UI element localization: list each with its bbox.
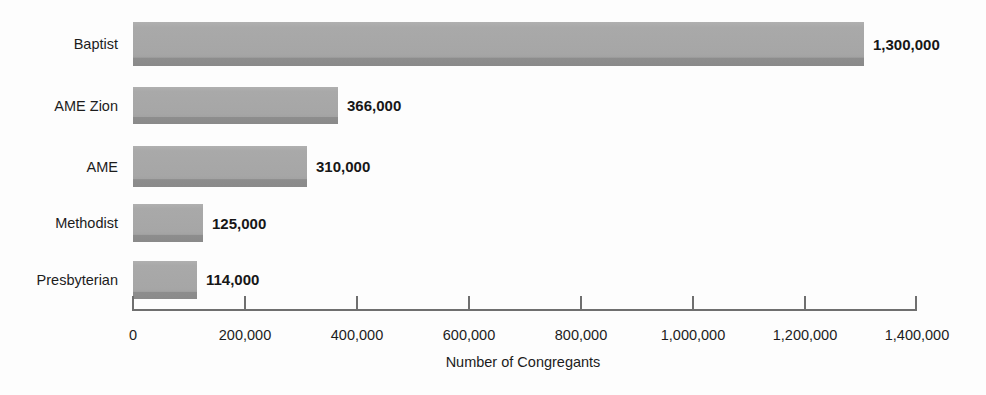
category-label-baptist: Baptist: [0, 37, 118, 52]
category-label-methodist: Methodist: [0, 216, 118, 231]
x-axis-tick: [580, 296, 582, 310]
plot-area: Baptist AME Zion AME Methodist Presbyter…: [0, 0, 986, 395]
x-axis-right-cap: [915, 296, 917, 310]
x-axis-tick-label: 0: [129, 328, 137, 343]
x-axis-left-cap: [132, 296, 134, 310]
value-label-baptist: 1,300,000: [873, 37, 940, 52]
category-label-ame: AME: [0, 160, 118, 175]
x-axis-title: Number of Congregants: [0, 355, 986, 370]
value-label-ame-zion: 366,000: [347, 98, 401, 113]
x-axis-tick-label: 400,000: [331, 328, 383, 343]
bar-ame-zion: [133, 87, 338, 124]
x-axis-line: [132, 309, 917, 311]
x-axis-tick-label: 1,200,000: [773, 328, 838, 343]
x-axis-tick: [356, 296, 358, 310]
x-axis-tick-label: 1,400,000: [885, 328, 950, 343]
category-label-presbyterian: Presbyterian: [0, 273, 118, 288]
value-label-methodist: 125,000: [212, 216, 266, 231]
bar-presbyterian: [133, 261, 197, 299]
value-label-presbyterian: 114,000: [206, 272, 259, 287]
bar-chart: Baptist AME Zion AME Methodist Presbyter…: [0, 0, 986, 395]
bar-methodist: [133, 204, 203, 242]
x-axis-tick-label: 600,000: [443, 328, 495, 343]
x-axis-tick-label: 800,000: [555, 328, 607, 343]
bar-ame: [133, 146, 307, 187]
x-axis-tick: [468, 296, 470, 310]
category-label-ame-zion: AME Zion: [0, 99, 118, 114]
bar-baptist: [133, 22, 864, 66]
x-axis-tick: [692, 296, 694, 310]
x-axis-tick: [244, 296, 246, 310]
x-axis-tick-label: 1,000,000: [661, 328, 726, 343]
x-axis-tick: [804, 296, 806, 310]
x-axis-title-text: Number of Congregants: [446, 354, 601, 370]
value-label-ame: 310,000: [316, 159, 370, 174]
x-axis-tick-label: 200,000: [219, 328, 271, 343]
